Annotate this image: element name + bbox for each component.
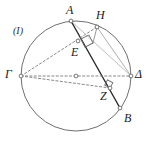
figure-caption: (I)	[13, 25, 23, 36]
perp-H-Theta	[93, 27, 97, 43]
point-marker-h	[95, 25, 99, 29]
point-marker-o	[74, 74, 78, 78]
line-A-Delta	[71, 21, 131, 76]
point-marker-group	[19, 19, 133, 110]
point-label-delta: Δ	[135, 68, 142, 80]
line-Gamma-Z	[21, 76, 110, 88]
point-marker-delta	[129, 74, 133, 78]
line-H-Delta	[97, 27, 131, 76]
point-marker-gamma	[19, 74, 23, 78]
geometry-figure: (I) AHΓΔEZB	[0, 0, 152, 146]
segment-group	[21, 21, 131, 108]
point-label-gamma: Γ	[5, 68, 12, 80]
point-label-a: A	[66, 4, 73, 16]
point-label-b: B	[124, 112, 131, 124]
point-marker-b	[118, 106, 122, 110]
point-label-e: E	[71, 46, 78, 58]
point-marker-z	[108, 86, 112, 90]
point-label-h: H	[96, 9, 105, 21]
point-marker-e	[76, 39, 80, 43]
point-label-z: Z	[100, 90, 107, 102]
point-marker-a	[69, 19, 73, 23]
